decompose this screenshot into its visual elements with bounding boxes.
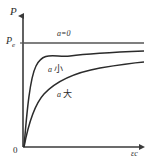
p-reference-label: Pe — [6, 36, 15, 49]
p-reference-sub: e — [12, 41, 15, 49]
annotation-a-large-prefix: a — [57, 90, 61, 99]
y-axis-label: P — [10, 6, 17, 17]
annotation-a-small-cjk: 小 — [54, 64, 63, 74]
plot-canvas — [0, 0, 153, 166]
annotation-a-large: a 大 — [57, 90, 72, 99]
origin-label: 0 — [13, 146, 18, 155]
annotation-a-zero: a=0 — [57, 30, 70, 38]
chart-figure: P εc Pe 0 a=0 a 小 a 大 — [0, 0, 153, 166]
annotation-a-small-prefix: a — [48, 65, 52, 74]
x-axis-label: εc — [131, 150, 138, 158]
annotation-a-small: a 小 — [48, 65, 63, 74]
annotation-a-large-cjk: 大 — [63, 89, 72, 99]
series-curve-a-small — [24, 51, 144, 147]
series-curve-a-large — [24, 62, 144, 147]
